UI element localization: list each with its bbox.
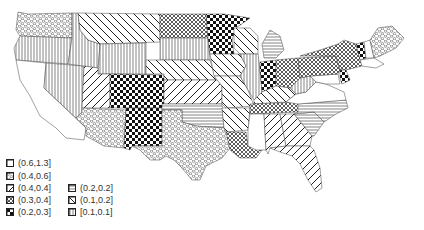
state-IA <box>210 54 246 76</box>
state-CO <box>110 74 164 108</box>
horizontal-swatch-icon <box>68 184 76 192</box>
state-MS <box>248 114 266 150</box>
state-OR <box>14 36 72 64</box>
state-WA <box>16 12 72 38</box>
state-NJ <box>340 70 350 84</box>
legend-item: (0.6,1.3] <box>6 157 51 168</box>
legend-item: (0.2,0.3] <box>6 206 51 217</box>
legend-item: (0.1,0.2] <box>68 194 113 205</box>
state-MT <box>78 13 160 44</box>
state-MA <box>360 58 384 68</box>
legend-item: (0.4,0.6] <box>6 170 51 181</box>
legend-label: (0.4,0.6] <box>18 171 51 181</box>
state-TN <box>250 102 300 114</box>
diagonal-down-swatch-icon <box>68 196 76 204</box>
state-MI <box>262 30 284 58</box>
legend-label: (0.2,0.2] <box>80 183 113 193</box>
state-WY <box>98 43 146 74</box>
legend-item: (0.2,0.2] <box>68 182 113 193</box>
legend-label: [0.1,0.1] <box>80 207 113 217</box>
vertical-swatch-icon <box>68 208 76 216</box>
legend-label: (0.1,0.2] <box>80 195 113 205</box>
state-ME <box>370 26 404 58</box>
state-NM <box>124 108 162 150</box>
state-FL <box>270 146 322 192</box>
state-SD <box>160 38 210 60</box>
blank-swatch-icon <box>6 159 14 167</box>
legend-item: [0.1,0.1] <box>68 206 113 217</box>
checker-swatch-icon <box>6 208 14 216</box>
state-ND <box>160 14 208 38</box>
state-AR <box>222 108 250 132</box>
legend-item: (0.4,0.4] <box>6 182 51 193</box>
state-KS <box>164 80 222 104</box>
dots-swatch-icon <box>6 196 14 204</box>
legend-label: (0.4,0.4] <box>18 183 51 193</box>
us-choropleth-map <box>0 0 424 230</box>
legend-label: (0.3,0.4] <box>18 195 51 205</box>
legend-label: (0.6,1.3] <box>18 158 51 168</box>
legend-item: (0.3,0.4] <box>6 194 51 205</box>
legend-label: (0.2,0.3] <box>18 207 51 217</box>
diagonal-up-swatch-icon <box>6 184 14 192</box>
honeycomb-swatch-icon <box>6 172 14 180</box>
state-WI <box>234 28 258 54</box>
